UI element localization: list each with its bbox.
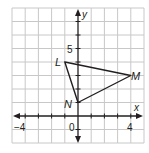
vertex-label-L: L	[55, 56, 61, 68]
y-axis	[75, 9, 81, 143]
y-axis-label: y	[81, 9, 88, 20]
tick-label-origin: 0	[69, 122, 75, 133]
x-axis-left-arrow-icon	[13, 113, 20, 119]
triangle-LMN	[65, 62, 131, 103]
y-axis-up-arrow-icon	[75, 9, 81, 16]
coordinate-plane: x y −4 0 4 5 L M N	[0, 0, 149, 153]
tick-label-x-neg4: −4	[14, 122, 26, 133]
x-axis-label: x	[133, 102, 140, 113]
tick-label-y-5: 5	[67, 44, 73, 55]
y-axis-down-arrow-icon	[75, 136, 81, 143]
vertex-label-N: N	[64, 98, 72, 110]
vertex-label-M: M	[131, 70, 141, 82]
tick-label-x-4: 4	[127, 122, 133, 133]
x-axis-right-arrow-icon	[136, 113, 143, 119]
